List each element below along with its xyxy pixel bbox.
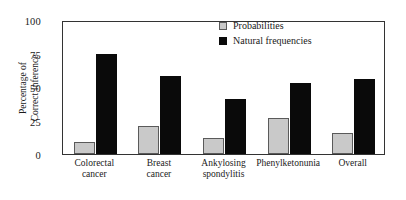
y-tick-label-50: 50 bbox=[30, 83, 41, 94]
bar-chart-figure: Percentage of Correct Inference 02550751… bbox=[0, 0, 406, 200]
bar-natural-frequencies-1 bbox=[160, 76, 181, 154]
bar-probabilities-1 bbox=[138, 126, 159, 154]
legend-item-natural-frequencies: Natural frequencies bbox=[219, 34, 312, 47]
bar-natural-frequencies-0 bbox=[96, 54, 117, 155]
y-axis: 0255075100 bbox=[0, 0, 62, 176]
legend-label-natural-frequencies: Natural frequencies bbox=[233, 34, 312, 47]
legend-item-probabilities: Probabilities bbox=[219, 19, 312, 32]
bar-group-4 bbox=[332, 22, 375, 154]
bar-natural-frequencies-2 bbox=[225, 99, 246, 154]
legend: Probabilities Natural frequencies bbox=[219, 19, 312, 49]
bar-probabilities-4 bbox=[332, 133, 353, 154]
y-tick-label-100: 100 bbox=[25, 16, 41, 27]
bar-probabilities-3 bbox=[268, 118, 289, 154]
bar-natural-frequencies-3 bbox=[290, 83, 311, 154]
y-tick-label-0: 0 bbox=[36, 150, 41, 161]
bar-group-0 bbox=[74, 22, 117, 154]
x-axis-label-4: Overall bbox=[312, 158, 393, 169]
bar-natural-frequencies-4 bbox=[354, 79, 375, 154]
y-tick-label-25: 25 bbox=[30, 116, 41, 127]
legend-label-probabilities: Probabilities bbox=[233, 19, 284, 32]
legend-swatch-icon-natural-frequencies bbox=[219, 37, 227, 45]
bar-group-1 bbox=[138, 22, 181, 154]
bar-probabilities-2 bbox=[203, 138, 224, 154]
y-tick-label-75: 75 bbox=[30, 49, 41, 60]
bar-probabilities-0 bbox=[74, 142, 95, 154]
legend-swatch-icon-probabilities bbox=[219, 22, 227, 30]
